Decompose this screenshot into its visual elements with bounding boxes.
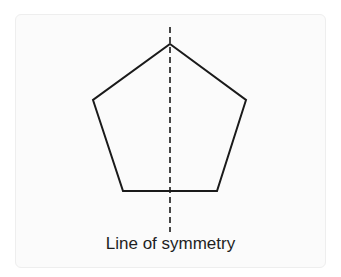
caption-line-of-symmetry: Line of symmetry (0, 234, 341, 254)
